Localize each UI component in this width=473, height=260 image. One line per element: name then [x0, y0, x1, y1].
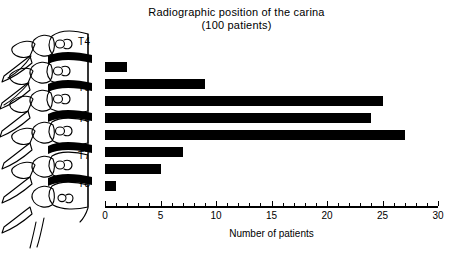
x-tick-4 [149, 203, 150, 206]
bar-t6-body [105, 130, 405, 140]
x-tick-label-15: 15 [260, 210, 284, 221]
x-tick-label-0: 0 [93, 210, 117, 221]
x-tick-label-10: 10 [204, 210, 228, 221]
x-tick-2 [127, 203, 128, 206]
x-tick-27 [405, 203, 406, 206]
x-tick-20 [327, 201, 328, 206]
x-tick-3 [138, 203, 139, 206]
x-tick-14 [260, 203, 261, 206]
x-tick-label-30: 30 [426, 210, 450, 221]
x-tick-label-20: 20 [315, 210, 339, 221]
x-tick-19 [316, 203, 317, 206]
vertebra-label-t7: T7 [78, 150, 90, 161]
x-tick-7 [183, 203, 184, 206]
vertebra-label-t8: T8 [78, 178, 90, 189]
x-tick-5 [161, 201, 162, 206]
x-tick-18 [305, 203, 306, 206]
bar-t4-t5-disc [105, 79, 205, 89]
x-tick-28 [416, 203, 417, 206]
x-tick-26 [394, 203, 395, 206]
x-tick-30 [438, 201, 439, 206]
x-tick-24 [371, 203, 372, 206]
x-tick-9 [205, 203, 206, 206]
x-tick-15 [272, 201, 273, 206]
bar-t7-body [105, 164, 161, 174]
vertebra-label-t4: T4 [78, 36, 90, 47]
x-tick-22 [349, 203, 350, 206]
bar-t7-t8-disc [105, 181, 116, 191]
x-tick-21 [338, 203, 339, 206]
x-tick-13 [249, 203, 250, 206]
x-tick-0 [105, 201, 106, 206]
x-tick-16 [283, 203, 284, 206]
x-tick-29 [427, 203, 428, 206]
bar-t5-t6-disc [105, 113, 371, 123]
chart-title-line1: Radiographic position of the carina [0, 6, 473, 19]
x-tick-8 [194, 203, 195, 206]
bar-t5-body [105, 96, 383, 106]
bar-t6-t7-disc [105, 147, 183, 157]
bar-t4-body [105, 62, 127, 72]
vertebra-label-t6: T6 [78, 113, 90, 124]
x-tick-1 [116, 203, 117, 206]
vertebra-label-t5: T5 [78, 82, 90, 93]
x-tick-6 [172, 203, 173, 206]
x-tick-label-5: 5 [149, 210, 173, 221]
x-tick-label-25: 25 [371, 210, 395, 221]
x-axis [105, 206, 438, 208]
x-tick-12 [238, 203, 239, 206]
x-tick-23 [360, 203, 361, 206]
bars-plot-area [105, 62, 438, 199]
x-tick-11 [227, 203, 228, 206]
x-tick-17 [294, 203, 295, 206]
x-axis-title: Number of patients [105, 228, 438, 239]
x-tick-10 [216, 201, 217, 206]
x-tick-25 [383, 201, 384, 206]
figure-radiographic-position-of-carina: Radiographic position of the carina (100… [0, 0, 473, 260]
